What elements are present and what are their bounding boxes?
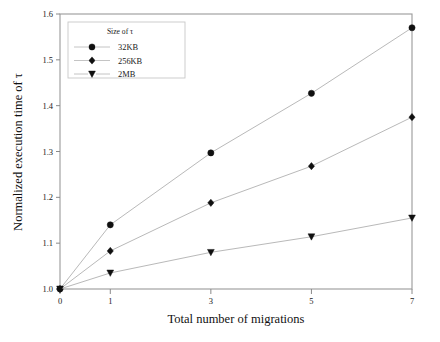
data-point-circle: [409, 25, 415, 31]
data-point-circle: [107, 222, 113, 228]
x-axis-tick-label: 1: [108, 296, 112, 306]
y-axis-tick-label: 1.5: [42, 55, 53, 65]
x-axis-title: Total number of migrations: [168, 312, 305, 326]
x-axis-tick-label: 0: [58, 296, 62, 306]
legend-title: Size of τ: [107, 27, 133, 36]
y-axis-tick-label: 1.2: [42, 192, 53, 202]
legend-label: 256KB: [118, 57, 143, 66]
x-axis-tick-label: 7: [410, 296, 414, 306]
data-point-circle: [89, 44, 95, 50]
legend-label: 32KB: [118, 43, 138, 52]
y-axis-tick-label: 1.6: [42, 9, 53, 19]
x-axis-tick-label: 5: [309, 296, 313, 306]
data-point-circle: [208, 150, 214, 156]
chart-container: 1.01.11.21.31.41.51.601357Total number o…: [0, 0, 440, 342]
y-axis-tick-label: 1.0: [42, 284, 53, 294]
x-axis-tick-label: 3: [209, 296, 213, 306]
data-point-circle: [308, 90, 314, 96]
y-axis-tick-label: 1.4: [42, 101, 53, 111]
line-chart: 1.01.11.21.31.41.51.601357Total number o…: [0, 0, 440, 342]
legend-label: 2MB: [118, 70, 136, 79]
y-axis-title: Normalized execution time of τ: [11, 73, 25, 231]
y-axis-tick-label: 1.1: [42, 238, 53, 248]
y-axis-tick-label: 1.3: [42, 147, 53, 157]
